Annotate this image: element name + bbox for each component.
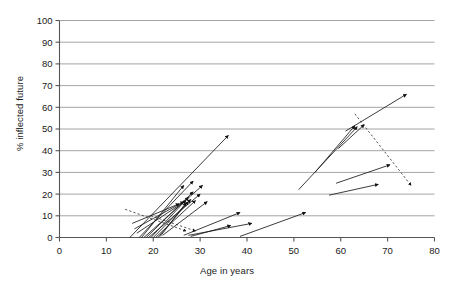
x-tick-label: 10 xyxy=(101,245,112,256)
x-tick-label: 50 xyxy=(289,245,300,256)
y-tick-label: 40 xyxy=(42,145,53,156)
solid-arrow xyxy=(137,201,186,234)
solid-arrow xyxy=(329,184,378,195)
y-tick-label: 60 xyxy=(42,102,53,113)
gridlines-group xyxy=(60,21,435,216)
y-tick-label: 90 xyxy=(42,37,53,48)
y-tick-label: 20 xyxy=(42,189,53,200)
solid-arrow xyxy=(338,125,364,149)
x-axis-ticks: 01020304050607080 xyxy=(57,238,440,256)
x-tick-label: 40 xyxy=(242,245,253,256)
scatter-plot-canvas: 0102030405060708090100 01020304050607080 xyxy=(0,0,454,285)
y-tick-label: 0 xyxy=(47,232,52,243)
solid-arrow xyxy=(191,226,231,237)
x-tick-label: 20 xyxy=(148,245,159,256)
solid-arrow xyxy=(345,94,406,131)
y-tick-label: 100 xyxy=(37,15,53,26)
y-axis-ticks: 0102030405060708090100 xyxy=(37,15,60,243)
chart-figure: 0102030405060708090100 01020304050607080… xyxy=(0,0,454,285)
y-tick-label: 10 xyxy=(42,210,53,221)
x-axis-label: Age in years xyxy=(0,265,454,276)
solid-arrow xyxy=(299,127,358,190)
y-axis-label: % inflected future xyxy=(14,59,25,169)
dashed-arrow xyxy=(125,209,186,231)
y-tick-label: 30 xyxy=(42,167,53,178)
x-tick-label: 70 xyxy=(382,245,393,256)
y-tick-label: 70 xyxy=(42,80,53,91)
solid-arrow xyxy=(315,126,355,173)
dashed-arrow xyxy=(355,114,411,186)
x-tick-label: 30 xyxy=(195,245,206,256)
x-tick-label: 0 xyxy=(57,245,62,256)
x-tick-label: 80 xyxy=(429,245,440,256)
y-tick-label: 80 xyxy=(42,58,53,69)
solid-arrow xyxy=(142,185,184,237)
x-tick-label: 60 xyxy=(335,245,346,256)
solid-arrow xyxy=(336,165,390,183)
y-tick-label: 50 xyxy=(42,123,53,134)
